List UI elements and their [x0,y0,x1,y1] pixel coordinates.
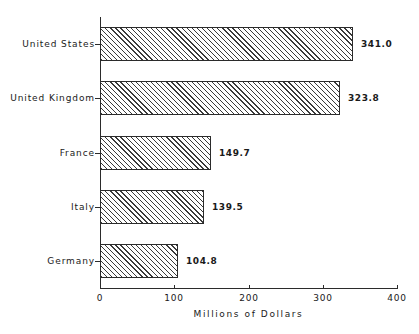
bar-chart: 341.0323.8149.7139.5104.8 0100200300400 … [0,0,419,334]
bar-rect [100,136,211,170]
category-label-united-kingdom: United Kingdom [10,93,95,103]
x-axis-title: Millions of Dollars [100,309,397,319]
bars-layer: 341.0323.8149.7139.5104.8 [0,0,419,334]
y-axis-tick [95,153,101,154]
bar-value-label: 139.5 [212,202,243,212]
bar-rect [100,190,204,224]
y-axis-tick [95,261,101,262]
category-label-germany: Germany [47,256,95,266]
x-axis-tick [323,285,324,289]
bar-rect [100,81,340,115]
bar-rect [100,244,178,278]
bar-germany [100,244,178,278]
x-axis-tick [174,285,175,289]
x-axis-tick-label: 100 [164,293,184,303]
x-axis-tick [397,285,398,289]
bar-italy [100,190,204,224]
category-label-united-states: United States [22,39,95,49]
bar-value-label: 149.7 [219,148,250,158]
bar-value-label: 104.8 [186,256,217,266]
x-axis-tick [249,285,250,289]
category-label-italy: Italy [71,202,95,212]
x-axis-tick-label: 400 [387,293,407,303]
bar-united-states [100,27,353,61]
y-axis-tick [95,207,101,208]
bar-united-kingdom [100,81,340,115]
x-axis-tick-label: 0 [97,293,104,303]
x-axis-tick-label: 200 [239,293,259,303]
category-label-france: France [60,148,95,158]
bar-france [100,136,211,170]
bar-value-label: 323.8 [348,93,379,103]
y-axis-tick [95,98,101,99]
y-axis-tick [95,44,101,45]
x-axis-tick-label: 300 [313,293,333,303]
bar-rect [100,27,353,61]
bar-value-label: 341.0 [361,39,392,49]
